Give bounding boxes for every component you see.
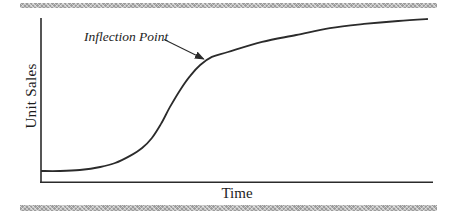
y-axis-label: Unit Sales	[23, 63, 40, 128]
x-axis-label: Time	[221, 185, 252, 202]
s-curve-figure: Unit Sales Time Inflection Point	[0, 0, 458, 220]
inflection-point-label: Inflection Point	[84, 29, 168, 45]
annotation-arrow	[164, 39, 204, 59]
